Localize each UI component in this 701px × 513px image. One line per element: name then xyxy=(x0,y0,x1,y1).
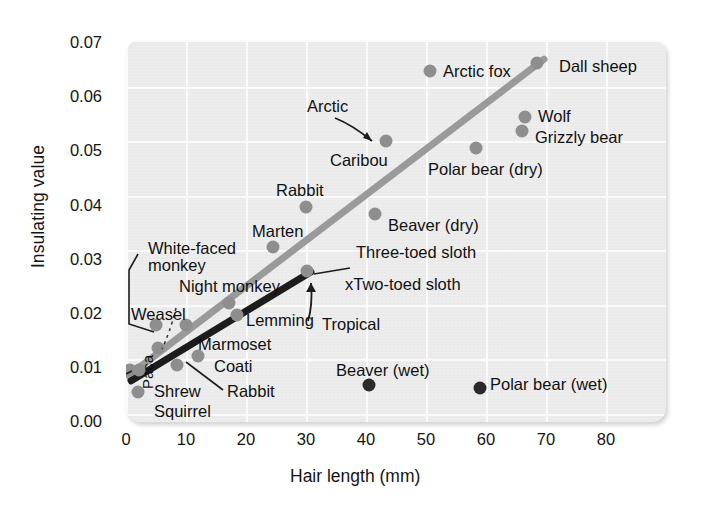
x-tick-60: 60 xyxy=(466,430,506,449)
label-beaver-dry: Beaver (dry) xyxy=(388,217,479,235)
y-tick-0.06: 0.06 xyxy=(44,87,102,106)
label-arctic: Arctic xyxy=(307,98,348,116)
point-lemming[interactable] xyxy=(231,309,244,322)
label-caribou: Caribou xyxy=(330,152,388,170)
point-marten[interactable] xyxy=(267,241,280,254)
x-tick-10: 10 xyxy=(166,430,206,449)
y-tick-0.04: 0.04 xyxy=(44,196,102,215)
label-three-toed-sloth: Three-toed sloth xyxy=(356,244,476,262)
label-dall-sheep: Dall sheep xyxy=(559,58,637,76)
gridline-x-10 xyxy=(186,40,188,422)
label-squirrel: Squirrel xyxy=(154,403,211,421)
gridline-y-0.07 xyxy=(126,40,666,42)
x-tick-80: 80 xyxy=(586,430,626,449)
label-polar-bear-wet: Polar bear (wet) xyxy=(490,376,607,394)
label-weasel: Weasel xyxy=(131,306,186,324)
x-tick-70: 70 xyxy=(526,430,566,449)
chart-figure: Insulating value Hair length (mm) 0.07 0… xyxy=(0,0,701,513)
x-tick-30: 30 xyxy=(286,430,326,449)
plot-area: Arctic fox Dall sheep Arctic Wolf Grizzl… xyxy=(126,40,666,422)
gridline-x-70 xyxy=(546,40,548,422)
y-tick-0.05: 0.05 xyxy=(44,141,102,160)
point-polar-bear-dry[interactable] xyxy=(469,141,482,154)
point-wolf[interactable] xyxy=(519,111,532,124)
label-two-toed-sloth: xTwo-toed sloth xyxy=(345,276,461,294)
point-beaver-wet[interactable] xyxy=(363,379,376,392)
point-white-faced-monkey[interactable] xyxy=(151,342,164,355)
point-night-monkey[interactable] xyxy=(223,297,236,310)
gridline-y-0.02 xyxy=(126,305,666,307)
x-tick-40: 40 xyxy=(346,430,386,449)
y-tick-0.03: 0.03 xyxy=(44,250,102,269)
y-tick-0.02: 0.02 xyxy=(44,304,102,323)
y-tick-0.00: 0.00 xyxy=(44,412,102,431)
label-shrew: Shrew xyxy=(154,383,201,401)
x-tick-20: 20 xyxy=(226,430,266,449)
x-tick-50: 50 xyxy=(406,430,446,449)
label-coati: Coati xyxy=(214,358,253,376)
label-rabbit-large: Rabbit xyxy=(276,182,324,200)
label-night-monkey: Night monkey xyxy=(179,278,280,296)
x-tick-0: 0 xyxy=(106,430,146,449)
y-tick-0.01: 0.01 xyxy=(44,358,102,377)
point-grizzly-bear[interactable] xyxy=(516,125,529,138)
point-polar-bear-wet[interactable] xyxy=(474,382,487,395)
label-marten: Marten xyxy=(252,223,303,241)
label-beaver-wet: Beaver (wet) xyxy=(336,362,430,380)
gridline-x-80 xyxy=(606,40,608,422)
point-dall-sheep[interactable] xyxy=(531,57,544,70)
label-marmoset: Marmoset xyxy=(198,336,271,354)
point-three-toed-sloth[interactable] xyxy=(301,265,314,278)
label-tropical: Tropical xyxy=(322,316,380,334)
y-tick-0.07: 0.07 xyxy=(44,33,102,52)
point-arctic-fox[interactable] xyxy=(424,65,437,78)
gridline-y-0.04 xyxy=(126,196,666,198)
point-caribou[interactable] xyxy=(379,134,392,147)
label-polar-bear-dry: Polar bear (dry) xyxy=(428,161,543,179)
label-white-faced-monkey-line2: monkey xyxy=(148,257,206,275)
label-rabbit-small: Rabbit xyxy=(227,383,275,401)
label-wolf: Wolf xyxy=(538,108,571,126)
point-rabbit-large[interactable] xyxy=(300,200,313,213)
label-lemming: Lemming xyxy=(246,312,314,330)
label-grizzly-bear: Grizzly bear xyxy=(535,129,623,147)
point-beaver-dry[interactable] xyxy=(369,208,382,221)
x-axis-title: Hair length (mm) xyxy=(290,466,420,487)
point-rabbit-small[interactable] xyxy=(171,359,184,372)
gridline-y-0.06 xyxy=(126,87,666,89)
label-arctic-fox: Arctic fox xyxy=(443,63,511,81)
